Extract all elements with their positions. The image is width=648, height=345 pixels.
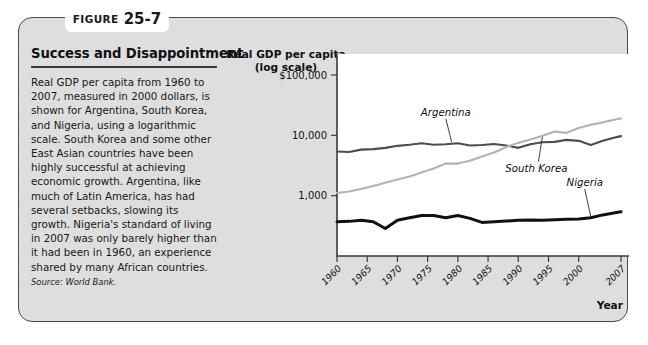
figure-number: 25-7: [124, 10, 162, 28]
x-tick-label: 1980: [440, 263, 465, 288]
line-chart: $100,00010,0001,000196019651970197519801…: [219, 36, 629, 323]
y-tick-label: $100,000: [279, 70, 327, 81]
heading-divider: [31, 66, 217, 68]
text-column: Success and Disappointment Real GDP per …: [31, 46, 227, 287]
series-label-argentina: Argentina: [420, 107, 471, 118]
x-tick-label: 2007: [603, 263, 628, 288]
x-tick-label: 1995: [530, 263, 555, 288]
y-tick-label: 1,000: [298, 190, 327, 201]
x-tick-label: 1975: [409, 263, 434, 288]
chart-container: Real GDP per capita (log scale) $100,000…: [219, 36, 629, 323]
x-tick-label: 1970: [379, 263, 404, 288]
description-text: Real GDP per capita from 1960 to 2007, m…: [31, 75, 217, 274]
x-tick-label: 1985: [470, 263, 495, 288]
x-axis-title: Year: [597, 299, 623, 311]
x-tick-label: 2000: [560, 263, 585, 288]
figure-label-word: FIGURE: [73, 13, 119, 25]
x-tick-label: 1965: [349, 263, 374, 288]
y-tick-label: 10,000: [292, 130, 327, 141]
x-tick-label: 1990: [500, 263, 525, 288]
page-title: Success and Disappointment: [31, 46, 227, 61]
source-note: Source: World Bank.: [31, 277, 227, 287]
figure-badge: FIGURE 25-7: [65, 6, 169, 32]
x-tick-label: 1960: [319, 263, 344, 288]
series-label-south-korea: South Korea: [505, 163, 567, 174]
series-label-nigeria: Nigeria: [567, 177, 603, 188]
figure-panel: FIGURE 25-7 Success and Disappointment R…: [18, 17, 628, 322]
